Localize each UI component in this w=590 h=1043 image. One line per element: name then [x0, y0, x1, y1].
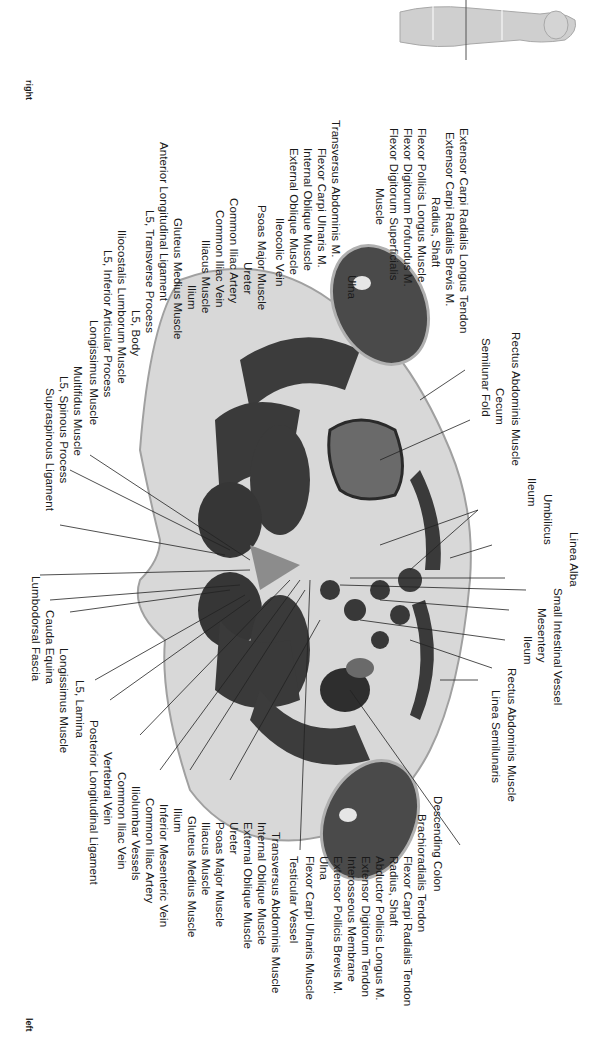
label-radius-shaft-lower: Radius, Shaft	[387, 856, 400, 926]
body-thumbnail-icon	[400, 0, 576, 60]
label-cauda-equina: Cauda Equina	[43, 610, 56, 684]
label-rectus-abdominis-lower: Rectus Abdominis Muscle	[505, 668, 518, 802]
label-linea-semilunaris: Linea Semilunaris	[489, 690, 502, 783]
label-ureter-lower: Ureter	[227, 822, 240, 855]
label-l5-body: L5, Body	[129, 310, 142, 356]
label-psoas-major-upper: Psoas Major Muscle	[255, 205, 268, 310]
label-ileum-lower: Ileum	[521, 636, 534, 665]
label-ulna-lower: Ulna	[317, 856, 330, 880]
label-extensor-carpi-radialis-longus-tendon: Extensor Carpi Radialis Longus Tendon	[457, 128, 470, 334]
label-extensor-pollicis-brevis: Extensor Pollicis Brevis M.	[331, 856, 344, 994]
label-cecum: Cecum	[493, 388, 506, 425]
label-flexor-digitorum-profundus: Flexor Digitorum Profundus M.	[401, 128, 414, 287]
label-gluteus-medius-upper: Gluteus Medius Muscle	[171, 218, 184, 340]
label-lumbodorsal-fascia: Lumbodorsal Fascia	[29, 576, 42, 681]
label-gluteus-medius-lower: Gluteus Medius Muscle	[185, 816, 198, 938]
label-ilium-lower: Ilium	[171, 808, 184, 833]
label-linea-alba: Linea Alba	[567, 532, 580, 587]
label-ileum-upper: Ileum	[525, 478, 538, 507]
label-iliacus-lower: Iliacus Muscle	[199, 822, 212, 896]
label-extensor-digitorum-tendon: Extensor Digitorum Tendon	[359, 856, 372, 997]
label-anterior-longitudinal-ligament: Anterior Longitudinal Ligament	[157, 142, 170, 301]
label-common-iliac-vein-upper: Common Iliac Vein	[213, 210, 226, 308]
label-vertebral-vein: Vertebral Vein	[101, 752, 114, 825]
label-psoas-major-lower: Psoas Major Muscle	[213, 822, 226, 927]
label-ilium-upper: Ilium	[185, 285, 198, 310]
label-flexor-digitorum-superficialis: Flexor Digitorum Superficialis	[387, 128, 400, 281]
label-iliacus-upper: Iliacus Muscle	[199, 240, 212, 314]
label-umbilicus: Umbilicus	[541, 494, 554, 545]
label-brachioradialis-tendon: Brachioradialis Tendon	[415, 814, 428, 932]
label-interosseous-membrane: Interosseous Membrane	[345, 856, 358, 982]
label-common-iliac-artery-upper: Common Iliac Artery	[227, 198, 240, 303]
label-transversus-abdominis-lower: Transversus Abdominis Muscle	[269, 832, 282, 994]
label-internal-oblique-upper: Internal Oblique Muscle	[301, 148, 314, 271]
label-small-intestinal-vessel: Small Intestinal Vessel	[551, 588, 564, 705]
label-posterior-longitudinal-ligament: Posterior Longitudinal Ligament	[87, 720, 100, 885]
label-flexor-digitorum-superficialis-cont: Muscle	[373, 188, 386, 225]
label-l5-transverse-process: L5, Transverse Process	[143, 210, 156, 333]
label-multifidus: Multifidus Muscle	[71, 366, 84, 456]
label-external-oblique-upper: External Oblique Muscle	[287, 148, 300, 275]
label-longissimus-upper: Longissimus Muscle	[87, 320, 100, 425]
label-flexor-carpi-ulnaris-upper: Flexor Carpi Ulnaris M.	[315, 148, 328, 268]
label-iliolumbar-vessels: Iliolumbar Vessels	[129, 786, 142, 880]
label-flexor-carpi-radialis-tendon: Flexor Carpi Radialis Tendon	[401, 856, 414, 1006]
label-l5-lamina: L5, Lamina	[73, 680, 86, 738]
label-internal-oblique-lower: Internal Oblique Muscle	[255, 822, 268, 945]
label-semilunar-fold: Semilunar Fold	[479, 338, 492, 417]
label-l5-inferior-articular-process: L5, Inferior Articular Process	[101, 250, 114, 397]
label-ulna-upper: Ulna	[345, 275, 358, 299]
label-inferior-mesenteric-vein: Inferior Mesenteric Vein	[157, 804, 170, 927]
label-abductor-pollicis-longus: Abductor Pollicis Longus M.	[373, 856, 386, 1001]
orientation-label-left: left	[24, 1018, 34, 1032]
label-longissimus-lower: Longissimus Muscle	[57, 648, 70, 753]
label-mesentery: Mesentery	[535, 608, 548, 663]
label-descending-colon: Descending Colon	[431, 796, 444, 892]
label-rectus-abdominis-upper: Rectus Abdominis Muscle	[509, 332, 522, 466]
label-ureter-upper: Ureter	[241, 262, 254, 295]
label-flexor-pollicis-longus: Flexor Pollicis Longus Muscle	[415, 128, 428, 282]
label-iliocostalis-lumborum: Iliocostalis Lumborum Muscle	[115, 230, 128, 384]
label-radius-shaft-upper: Radius, Shaft	[429, 197, 442, 267]
label-common-iliac-vein-lower: Common Iliac Vein	[115, 772, 128, 870]
label-supraspinous-ligament: Supraspinous Ligament	[43, 388, 56, 511]
label-extensor-carpi-radialis-brevis: Extensor Carpi Radialis Brevis M.	[443, 132, 456, 307]
label-transversus-abdominis-upper: Transversus Abdominis M.	[329, 120, 342, 257]
label-ileocolic-vein: Ileocolic Vein	[273, 218, 286, 287]
anatomy-cross-section-figure: right left Extensor Carpi Radialis Longu…	[0, 0, 590, 1043]
orientation-label-right: right	[24, 80, 34, 100]
label-l5-spinous-process: L5, Spinous Process	[57, 376, 70, 483]
label-external-oblique-lower: External Oblique Muscle	[241, 822, 254, 949]
label-common-iliac-artery-lower: Common Iliac Artery	[143, 798, 156, 903]
label-testicular-vessel: Testicular Vessel	[287, 856, 300, 943]
label-flexor-carpi-ulnaris-lower: Flexor Carpi Ulnaris Muscle	[303, 856, 316, 1000]
